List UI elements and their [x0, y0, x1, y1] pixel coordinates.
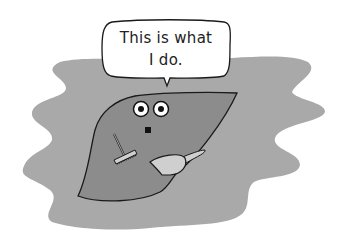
speech-line-1: This is what [101, 28, 231, 48]
speech-line-2: I do. [101, 50, 231, 70]
mouth [145, 127, 151, 133]
